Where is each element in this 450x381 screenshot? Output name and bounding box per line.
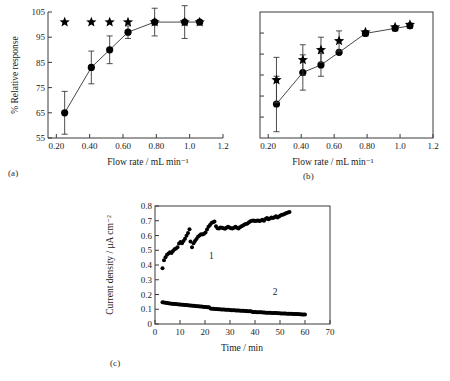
- series-line: [276, 26, 409, 104]
- x-axis-ticks: 010203040506070: [153, 320, 335, 337]
- x-tick-label: 0.60: [115, 141, 131, 151]
- x-tick-label: 40: [251, 327, 261, 337]
- y-tick-label: 0.8: [141, 201, 153, 211]
- y-axis-ticks: 5565758595105: [32, 7, 53, 143]
- x-tick-label: 60: [301, 327, 311, 337]
- x-tick-label: 0.80: [148, 141, 164, 151]
- x-tick-label: 1.0: [184, 141, 196, 151]
- x-tick-label: 50: [276, 327, 286, 337]
- y-tick-label: 55: [36, 133, 46, 143]
- data-point-circle: [106, 46, 113, 53]
- series-line: [65, 22, 200, 113]
- x-tick-label: 0.40: [82, 141, 98, 151]
- axes-group: [48, 12, 223, 138]
- x-tick-label: 1.0: [394, 141, 406, 151]
- series-curve-2: [161, 300, 308, 316]
- data-point: [188, 227, 192, 231]
- y-tick-label: 0.2: [141, 290, 152, 300]
- x-tick-label: 0.20: [48, 141, 64, 151]
- y-tick-label: 0.7: [141, 216, 153, 226]
- data-point: [176, 245, 180, 249]
- panel-c-caption: (c): [110, 358, 120, 368]
- y-axis-title: Current density / μA cm⁻²: [105, 215, 115, 315]
- annotations: 12: [209, 251, 278, 297]
- curve-label: 2: [273, 287, 278, 297]
- data-point-star: [60, 17, 70, 27]
- y-tick-label: 65: [36, 108, 46, 118]
- panel-b: 0.200.400.600.801.01.2Flow rate / mL min…: [215, 0, 450, 175]
- y-tick-label: 105: [32, 7, 46, 17]
- y-axis-title: % Relative response: [10, 36, 20, 114]
- y-tick-label: 0.4: [141, 260, 153, 270]
- data-point-star: [105, 17, 115, 27]
- x-tick-label: 0.60: [326, 141, 342, 151]
- data-point: [303, 313, 307, 317]
- y-tick-label: 0.6: [141, 231, 153, 241]
- y-tick-label: 0.3: [141, 275, 153, 285]
- x-tick-label: 0.80: [359, 141, 375, 151]
- series-stars: [60, 17, 205, 27]
- y-axis-ticks: 00.10.20.30.40.50.60.70.8: [141, 201, 159, 329]
- y-tick-label: 75: [36, 83, 46, 93]
- panel-b-caption: (b): [303, 171, 314, 181]
- data-point: [186, 231, 190, 235]
- data-point: [213, 219, 217, 223]
- y-tick-label: 0.1: [141, 304, 152, 314]
- data-point: [190, 245, 194, 249]
- data-point-circle: [61, 109, 68, 116]
- series-curve-1: [161, 210, 292, 270]
- x-tick-label: 10: [176, 327, 186, 337]
- y-tick-label: 0.5: [141, 245, 153, 255]
- panel-c: 01020304050607000.10.20.30.40.50.60.70.8…: [100, 196, 350, 361]
- panel-c-plot: 01020304050607000.10.20.30.40.50.60.70.8…: [100, 196, 350, 361]
- panel-a: 0.200.400.600.801.01.25565758595105Flow …: [0, 0, 235, 175]
- series-circles: [273, 22, 414, 131]
- x-tick-label: 1.2: [427, 141, 438, 151]
- data-point: [288, 210, 292, 214]
- x-axis-ticks: 0.200.400.600.801.01.2: [48, 134, 228, 151]
- x-axis-ticks: 0.200.400.600.801.01.2: [260, 134, 438, 151]
- plot-frame: [260, 12, 433, 138]
- x-axis-title: Flow rate / mL min⁻¹: [107, 157, 189, 167]
- data-point-star: [86, 17, 96, 27]
- data-point-star: [123, 17, 133, 27]
- x-tick-label: 20: [201, 327, 211, 337]
- plot-axes: [48, 12, 223, 138]
- y-axis-ticks: [260, 33, 264, 117]
- panel-a-caption: (a): [8, 168, 18, 178]
- x-axis-title: Time / min: [221, 343, 263, 353]
- y-tick-label: 0: [148, 319, 153, 329]
- data-point-circle: [124, 29, 131, 36]
- curve-label: 1: [209, 251, 214, 261]
- x-tick-label: 70: [326, 327, 336, 337]
- series-stars: [271, 19, 415, 103]
- figure-container: 0.200.400.600.801.01.25565758595105Flow …: [0, 0, 450, 381]
- panel-b-plot: 0.200.400.600.801.01.2Flow rate / mL min…: [215, 0, 450, 175]
- x-tick-label: 0: [153, 327, 158, 337]
- x-axis-title: Flow rate / mL min⁻¹: [292, 157, 374, 167]
- x-tick-label: 30: [226, 327, 236, 337]
- y-tick-label: 85: [36, 58, 46, 68]
- x-tick-label: 0.20: [260, 141, 276, 151]
- axes-group: [260, 12, 433, 138]
- data-point-circle: [88, 64, 95, 71]
- y-tick-label: 95: [36, 32, 46, 42]
- x-tick-label: 0.40: [293, 141, 309, 151]
- data-point: [161, 266, 165, 270]
- panel-a-plot: 0.200.400.600.801.01.25565758595105Flow …: [0, 0, 235, 175]
